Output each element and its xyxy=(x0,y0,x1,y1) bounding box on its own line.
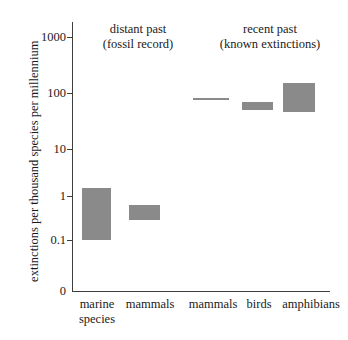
y-tick-mark-1 xyxy=(67,196,73,197)
group-header-distant-past: distant past (fossil record) xyxy=(78,22,198,52)
x-category-label-marine-species: marine species xyxy=(73,297,121,327)
group-header-distant-past-line2: (fossil record) xyxy=(78,37,198,52)
x-axis-line xyxy=(72,291,330,292)
y-tick-label-0: 0 xyxy=(60,285,66,298)
group-header-recent-past: recent past (known extinctions) xyxy=(196,22,344,52)
bar-birds-recent xyxy=(242,102,273,110)
y-axis-line xyxy=(72,22,73,291)
x-category-label-mammals-recent: mammals xyxy=(185,297,241,312)
group-header-recent-past-line2: (known extinctions) xyxy=(196,37,344,52)
y-tick-label-100: 100 xyxy=(47,87,66,100)
group-header-recent-past-line1: recent past xyxy=(243,22,297,36)
extinction-rate-chart: 1000 100 10 1 0.1 0 extinctions per thou… xyxy=(0,0,348,340)
y-axis-title: extinctions per thousand species per mil… xyxy=(28,31,41,291)
x-category-label-amphibians: amphibians xyxy=(277,297,345,312)
y-tick-label-0.1: 0.1 xyxy=(50,234,66,247)
bar-mammals-fossil xyxy=(129,205,160,220)
bar-amphibians-recent xyxy=(283,83,315,112)
x-category-label-birds: birds xyxy=(242,297,276,312)
y-tick-mark-10 xyxy=(67,149,73,150)
y-tick-mark-100 xyxy=(67,93,73,94)
bar-marine-species-fossil xyxy=(82,188,111,240)
x-category-label-marine-line2: species xyxy=(73,312,121,327)
y-tick-label-1000: 1000 xyxy=(41,31,66,44)
y-tick-label-1: 1 xyxy=(60,190,66,203)
group-header-distant-past-line1: distant past xyxy=(110,22,167,36)
y-tick-mark-1000 xyxy=(67,37,73,38)
x-category-label-marine-line1: marine xyxy=(80,297,115,311)
y-tick-label-10: 10 xyxy=(54,143,67,156)
y-tick-mark-0.1 xyxy=(67,240,73,241)
bar-mammals-recent xyxy=(193,98,229,100)
x-category-label-mammals-fossil: mammals xyxy=(122,297,178,312)
